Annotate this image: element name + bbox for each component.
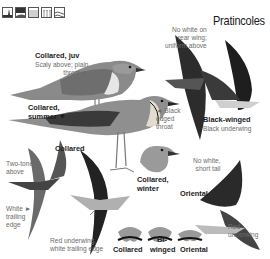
label-red-underwing-2: underwing <box>228 231 258 239</box>
label-black-edged-3: throat <box>156 123 180 131</box>
label-red-underwing: Red underwing <box>228 223 258 239</box>
label-rear-wing-3: uniform above <box>165 42 207 50</box>
black-winged-flight-right <box>200 40 260 110</box>
label-rear-wing-2: rear wing; <box>165 34 207 42</box>
label-collared-winter: Collared, winter <box>137 176 169 193</box>
label-two-tone: Two-tone above <box>6 160 33 176</box>
label-collared-juv-note1: Scaly above; plain <box>35 61 89 69</box>
label-oriental: Oriental <box>180 190 208 199</box>
label-red-underwing-white-1: Red underwing, <box>50 237 103 245</box>
label-collared-summer: Collared, summer ▼ <box>28 104 66 121</box>
label-no-white-2: short tail <box>193 165 221 173</box>
tail-collared-icon <box>118 227 142 242</box>
label-white-trailing-2: trailing <box>6 213 31 221</box>
label-rear-wing-1: No white on <box>165 26 207 34</box>
label-no-white-short-tail: No white, short tail <box>193 157 221 173</box>
label-rear-wing: No white on rear wing; uniform above <box>165 26 207 50</box>
label-black-winged-name: Black-winged <box>203 116 251 125</box>
tail-label-bi: Bi- <box>157 236 167 245</box>
label-red-underwing-white-2: white trailing edge <box>50 245 103 253</box>
label-collared-summer-2: summer ▼ <box>28 113 66 122</box>
label-collared-flight-name: Collared <box>55 145 85 154</box>
label-two-tone-2: above <box>6 168 33 176</box>
tail-label-collared: Collared <box>113 246 143 255</box>
tail-label-winged: winged <box>150 246 175 255</box>
label-black-edged-2: edged <box>156 115 180 123</box>
label-white-trailing-3: edge <box>6 221 31 229</box>
label-black-winged: Black-winged Black underwing <box>203 116 251 133</box>
tail-label-oriental: Oriental <box>180 246 208 255</box>
label-collared-juv: Collared, juv Scaly above; plain throat … <box>35 52 89 77</box>
tail-oriental-icon <box>178 230 202 241</box>
label-collared-flight: Collared <box>55 145 85 154</box>
label-collared-juv-note2: throat ► <box>35 69 89 77</box>
label-black-edged-throat: ◄ Black edged throat <box>156 107 180 131</box>
label-white-trailing-edge: White ► trailing edge <box>6 205 31 229</box>
label-collared-juv-name: Collared, juv <box>35 52 89 61</box>
label-red-underwing-white: Red underwing, white trailing edge <box>50 237 103 253</box>
label-black-winged-note: Black underwing <box>203 125 251 133</box>
label-oriental-name: Oriental <box>180 190 208 199</box>
label-black-edged-1: ◄ Black <box>156 107 180 115</box>
label-two-tone-1: Two-tone <box>6 160 33 168</box>
collared-winter-head <box>140 146 180 172</box>
label-collared-winter-2: winter <box>137 185 169 194</box>
label-white-trailing-1: White ► <box>6 205 31 213</box>
label-no-white-1: No white, <box>193 157 221 165</box>
label-red-underwing-1: Red <box>228 223 258 231</box>
